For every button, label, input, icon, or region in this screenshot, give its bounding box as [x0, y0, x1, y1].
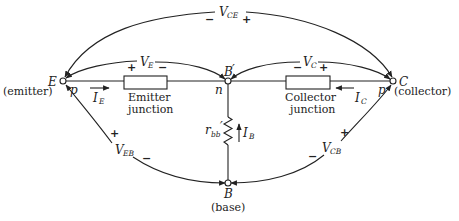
base-letter: B: [223, 187, 233, 201]
v-c-minus-sign: −: [293, 61, 302, 74]
v-eb-subscript: EB: [122, 149, 134, 158]
resistor-rbb-zigzag: [224, 117, 232, 145]
v-cb-plus-sign: +: [340, 126, 349, 139]
emitter-junction-label-2: junction: [126, 103, 173, 116]
collector-terminal: [390, 78, 396, 84]
v-cb-minus-sign: −: [308, 150, 317, 163]
base-current-subscript: B: [248, 132, 255, 141]
resistor-prime: ′: [220, 120, 223, 134]
collector-name: (collector): [394, 85, 451, 98]
emitter-current-subscript: E: [98, 97, 105, 106]
collector-junction-label-2: junction: [288, 103, 335, 116]
collector-junction-box: [286, 76, 330, 89]
v-ce-plus-sign: +: [242, 13, 251, 26]
base-name: (base): [211, 201, 245, 214]
collector-current-subscript: C: [361, 97, 367, 106]
v-ce-subscript: CE: [227, 11, 239, 20]
v-e-minus-sign: −: [158, 61, 167, 74]
collector-current-label: I: [354, 91, 360, 105]
v-eb-minus-sign: −: [142, 152, 151, 165]
base-branch: [224, 84, 232, 180]
v-eb-plus-sign: +: [110, 127, 119, 140]
emitter-region: p: [70, 83, 78, 97]
base-current-label: I: [242, 126, 248, 140]
emitter-name: (emitter): [3, 85, 53, 98]
v-c-subscript: C: [311, 61, 317, 70]
base-terminal: [225, 180, 231, 186]
v-c-plus-sign: +: [319, 61, 328, 74]
emitter-junction-box: [124, 76, 167, 89]
collector-region: p: [378, 83, 386, 97]
v-e-subscript: E: [147, 61, 154, 70]
emitter-terminal: [60, 78, 66, 84]
bjt-junction-diagram: E (emitter) p B ′ n C (collector) p B (b…: [0, 0, 459, 221]
v-cb-subscript: CB: [330, 147, 342, 156]
emitter-current-label: I: [92, 91, 98, 105]
v-ce-minus-sign: −: [205, 13, 214, 26]
internal-base-prime: ′: [232, 63, 235, 77]
internal-base-region: n: [215, 83, 223, 97]
v-e-plus-sign: +: [127, 61, 136, 74]
